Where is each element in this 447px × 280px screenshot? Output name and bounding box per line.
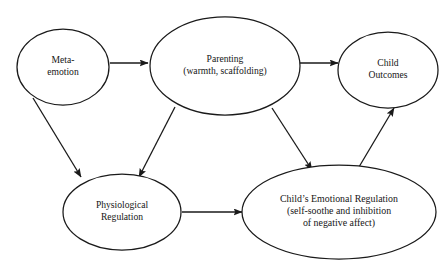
- node-childs-emotional-regulation: Child’s Emotional Regulation(self-soothe…: [242, 165, 436, 259]
- node-label-line: Outcomes: [369, 69, 408, 80]
- edge-childs-emotional-regulation-to-child-outcomes: [356, 108, 394, 172]
- node-label-line: (self-soothe and inhibition: [287, 205, 391, 217]
- edge-parenting-to-physiological-regulation: [139, 107, 175, 177]
- node-label-meta-emotion: Meta-emotion: [47, 54, 79, 77]
- node-meta-emotion: Meta-emotion: [17, 29, 109, 105]
- edge-parenting-to-childs-emotional-regulation: [272, 108, 312, 170]
- node-label-line: Regulation: [101, 211, 143, 222]
- node-label-line: emotion: [47, 66, 79, 77]
- node-label-line: Child: [377, 57, 399, 68]
- node-parenting: Parenting(warmth, scaffolding): [150, 17, 300, 115]
- diagram-svg: Meta-emotionParenting(warmth, scaffoldin…: [0, 0, 447, 280]
- node-physiological-regulation: PhysiologicalRegulation: [63, 174, 181, 250]
- diagram-canvas: Meta-emotionParenting(warmth, scaffoldin…: [0, 0, 447, 280]
- node-label-line: (warmth, scaffolding): [183, 65, 266, 77]
- node-child-outcomes: ChildOutcomes: [338, 32, 438, 108]
- node-label-line: Child’s Emotional Regulation: [280, 193, 398, 204]
- node-label-physiological-regulation: PhysiologicalRegulation: [96, 199, 149, 222]
- node-label-line: Physiological: [96, 199, 149, 210]
- nodes-layer: Meta-emotionParenting(warmth, scaffoldin…: [17, 17, 438, 259]
- node-label-line: Meta-: [52, 54, 75, 65]
- node-label-line: of negative affect): [303, 218, 375, 230]
- node-label-line: Parenting: [207, 53, 244, 64]
- edge-meta-emotion-to-physiological-regulation: [33, 98, 81, 177]
